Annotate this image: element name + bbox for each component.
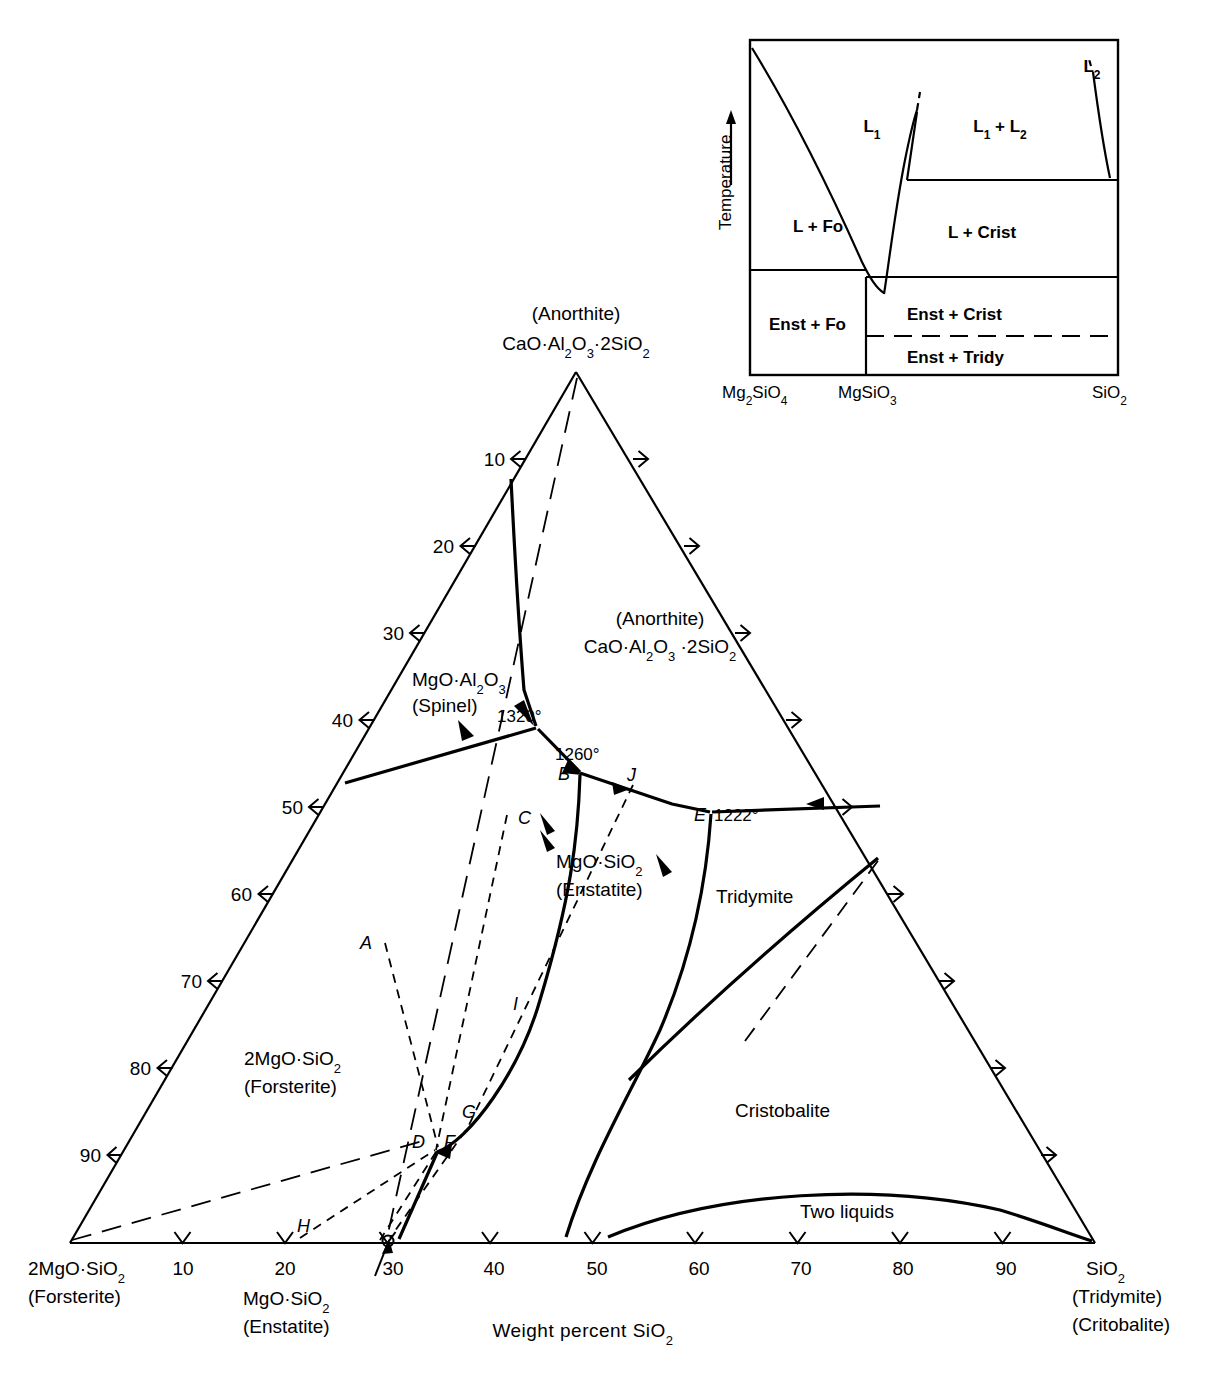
boundary-B-to-E [580,773,710,812]
phase-boundary-curves [345,479,1092,1241]
bottom-tick-label-50: 50 [586,1258,607,1279]
point-label-H: H [297,1216,311,1236]
inset-cristobalite-liquidus [884,110,917,294]
left-corner-line1: 2MgO·SiO2 [28,1258,125,1286]
bottom-tick-labels: 10 20 30 40 50 60 70 80 90 [172,1258,1016,1279]
inset-field-EnstCrist: Enst + Crist [907,305,1002,324]
left-tick-10 [511,451,526,467]
right-corner-line1: SiO2 [1086,1258,1125,1286]
apex-label-line2: CaO·Al2O3·2SiO2 [502,333,649,361]
phase-diagram-figure: 10 20 30 40 50 60 70 80 90 10 20 30 40 5… [0,0,1208,1393]
left-tick-30 [410,625,425,641]
left-tick-label-10: 10 [484,449,505,470]
point-label-G: G [462,1102,476,1122]
bottom-tick-50 [585,1232,601,1243]
bottom-tick-label-70: 70 [790,1258,811,1279]
right-tick-80 [990,1060,1005,1076]
point-label-I: I [513,994,518,1014]
boundary-B-C-I-D [437,775,580,1152]
ternary-triangle [70,372,1095,1243]
bottom-tick-10 [175,1232,191,1243]
arrow-C-up [540,813,555,835]
left-tick-80 [158,1060,173,1076]
left-tick-label-20: 20 [433,536,454,557]
bottom-tick-label-40: 40 [483,1258,504,1279]
left-tick-label-80: 80 [130,1058,151,1079]
left-tick-60 [259,886,274,902]
region-spinel-line2: (Spinel) [412,695,477,716]
inset-field-L1L2: L1 + L2 [973,117,1027,142]
join-D-base [380,1152,436,1240]
left-tick-label-30: 30 [383,623,404,644]
join-anorthite-enstatite [387,378,577,1238]
region-anorthite-line2: CaO·Al2O3 ·2SiO2 [584,636,737,664]
point-label-J: J [626,765,637,785]
apex-label: (Anorthite) CaO·Al2O3·2SiO2 [502,303,649,361]
join-forsterite-F [72,1139,430,1240]
temperature-label-1320: 1320° [497,707,542,726]
inset-field-L1: L1 [863,117,880,142]
region-enstatite-line2: (Enstatite) [556,879,643,900]
inset-liquidus-dashed-extension [917,92,920,110]
inset-x-label-mid: MgSiO3 [838,383,897,408]
inset-temperature-arrow-icon [726,110,736,124]
bottom-tick-label-10: 10 [172,1258,193,1279]
inset-temperature-axis: Temperature [716,110,736,230]
inset-field-L2: L2 [1083,57,1100,82]
right-tick-20 [684,538,699,554]
arrow-enstatite-tridymite-up [656,854,672,877]
temperature-label-1222: 1222° [714,806,759,825]
inset-field-EnstFo: Enst + Fo [769,315,846,334]
left-tick-90 [108,1147,123,1163]
left-tick-40 [360,712,375,728]
inset-x-label-right: SiO2 [1092,383,1127,408]
region-label-anorthite: (Anorthite) CaO·Al2O3 ·2SiO2 [584,608,737,664]
inset-L2-boundary [1093,72,1110,178]
join-C-D [436,815,507,1150]
apex-label-line1: (Anorthite) [532,303,621,324]
temperature-label-1260: 1260° [555,745,600,764]
join-H-D [300,1150,435,1238]
region-label-two-liquids: Two liquids [800,1201,894,1222]
left-tick-label-50: 50 [282,797,303,818]
point-label-E: E [694,805,707,825]
bottom-tick-80 [892,1232,908,1243]
arrow-forsterite-spinel [458,720,474,741]
region-anorthite-line1: (Anorthite) [616,608,705,629]
point-label-C: C [518,808,532,828]
bottom-tick-label-80: 80 [892,1258,913,1279]
right-tick-10 [633,451,648,467]
inset-field-LFo: L + Fo [793,217,843,236]
bottom-tick-label-90: 90 [995,1258,1016,1279]
left-tick-label-70: 70 [181,971,202,992]
bottom-tick-label-20: 20 [274,1258,295,1279]
boundary-D-to-base [399,1153,437,1239]
left-tick-70 [208,973,223,989]
bottom-tick-20 [277,1232,293,1243]
inset-field-LCrist: L + Crist [948,223,1017,242]
left-corner-label: 2MgO·SiO2 (Forsterite) [28,1258,125,1307]
region-label-forsterite: 2MgO·SiO2 (Forsterite) [244,1048,341,1097]
axis-title-bottom: Weight percent SiO2 [492,1320,673,1348]
inset-y-axis-label: Temperature [716,135,735,230]
region-spinel-line1: MgO·Al2O3 [412,669,506,697]
right-tick-30 [735,625,750,641]
inset-x-label-left: Mg2SiO4 [722,383,788,408]
bottom-tick-label-30: 30 [382,1258,403,1279]
region-forsterite-line2: (Forsterite) [244,1076,337,1097]
point-label-D: D [412,1132,425,1152]
enstatite-callout: MgO·SiO2 (Enstatite) [243,1236,394,1338]
point-label-B: B [558,764,570,784]
right-corner-label: SiO2 (Tridymite) (Critobalite) [1072,1258,1170,1335]
enstatite-callout-line2: (Enstatite) [243,1316,330,1337]
bottom-tick-60 [687,1232,703,1243]
left-tick-20 [461,538,476,554]
boundary-anorthite-spinel [511,479,536,726]
left-tick-label-60: 60 [231,884,252,905]
bottom-tick-70 [790,1232,806,1243]
inset-forsterite-liquidus [752,48,884,293]
bottom-tick-label-60: 60 [688,1258,709,1279]
bottom-tick-90 [995,1232,1011,1243]
left-tick-50 [309,799,324,815]
left-tick-label-40: 40 [332,710,353,731]
